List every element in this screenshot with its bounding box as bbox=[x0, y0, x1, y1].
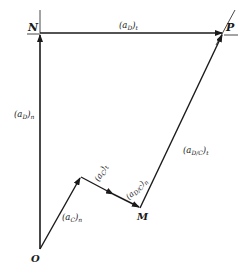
point-label-m: M bbox=[136, 211, 149, 222]
label-aD-normal: (aD)n bbox=[14, 109, 35, 120]
point-label-n: N bbox=[27, 21, 39, 34]
vector-aDC-tangential bbox=[140, 35, 222, 208]
label-aDC-tangential: (aD/C)t bbox=[183, 145, 209, 156]
label-aC-tangential: (aC)t bbox=[93, 162, 111, 183]
point-label-o: O bbox=[31, 253, 40, 264]
label-aD-tangential: (aD)t bbox=[119, 20, 139, 31]
label-aDC-normal: (aD/C)n bbox=[124, 176, 150, 202]
label-aC-normal: (aC)n bbox=[62, 212, 82, 223]
acceleration-polygon-diagram: N P O M (aD)n (aD)t (aC)n (aC)t (aD/C)n … bbox=[0, 0, 246, 274]
point-label-p: P bbox=[225, 21, 235, 34]
